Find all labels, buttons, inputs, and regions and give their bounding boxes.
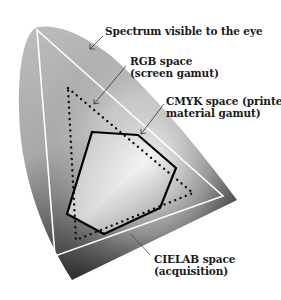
gamut-diagram: Spectrum visible to the eye RGB space (s…: [0, 0, 281, 300]
cmyk-label: CMYK space (printed material gamut): [166, 95, 281, 119]
rgb-label: RGB space (screen gamut): [130, 55, 219, 79]
spectrum-label-text: Spectrum visible to the eye: [105, 25, 263, 37]
rgb-label-line1: RGB space: [130, 55, 219, 67]
cmyk-label-line1: CMYK space (printed: [166, 95, 281, 107]
cielab-label-line2: (acquisition): [154, 265, 235, 277]
cielab-label: CIELAB space (acquisition): [154, 253, 235, 277]
spectrum-label: Spectrum visible to the eye: [105, 25, 263, 37]
cielab-label-line1: CIELAB space: [154, 253, 235, 265]
rgb-label-line2: (screen gamut): [130, 67, 219, 79]
gamut-diagram-graphic: [0, 0, 281, 300]
cmyk-label-line2: material gamut): [166, 107, 281, 119]
